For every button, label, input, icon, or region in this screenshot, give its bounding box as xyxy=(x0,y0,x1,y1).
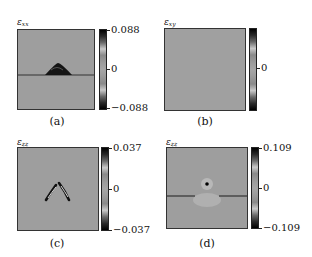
panel-b-colorbar xyxy=(249,28,257,111)
point-defect-feature-icon xyxy=(167,148,248,229)
panel-c-colorbar xyxy=(101,147,109,231)
panel-c-colorbar-max: 0.037 xyxy=(113,143,142,153)
panel-c-colorbar-mid: 0 xyxy=(113,184,119,194)
panel-d-colorbar-mid: 0 xyxy=(263,183,269,193)
panel-a-colorbar xyxy=(99,29,107,110)
crack-cap-feature-icon xyxy=(18,30,95,110)
panel-d-colorbar-min: −0.109 xyxy=(263,223,300,233)
panel-c-caption: (c) xyxy=(37,238,77,249)
panel-b-symbol: εxy xyxy=(164,18,176,28)
panel-d-colorbar-max: 0.109 xyxy=(263,143,292,153)
panel-d-colorbar xyxy=(251,147,259,229)
panel-b-strain-map xyxy=(164,28,246,111)
panel-d-strain-map xyxy=(166,147,248,229)
panel-d-caption: (d) xyxy=(187,238,227,249)
panel-a-colorbar-max: 0.088 xyxy=(111,25,140,35)
panel-c-strain-map xyxy=(17,147,99,231)
panel-a-colorbar-mid: 0 xyxy=(111,64,117,74)
panel-a-caption: (a) xyxy=(37,116,77,127)
arc-pair-feature-icon xyxy=(18,148,99,231)
panel-b-colorbar-mid: 0 xyxy=(261,63,267,73)
panel-c-colorbar-min: −0.037 xyxy=(113,225,150,235)
panel-b-caption: (b) xyxy=(185,116,225,127)
panel-a-strain-map xyxy=(17,29,95,110)
panel-a-colorbar-min: −0.088 xyxy=(111,103,148,113)
panel-a-symbol: εxx xyxy=(17,18,29,28)
